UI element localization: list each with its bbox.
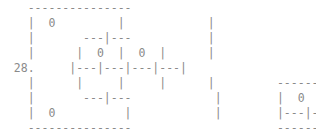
ascii-row-7: | 0 | | |---|---| [0, 106, 316, 121]
ascii-row-3: | | 0 | 0 | | [0, 46, 316, 61]
ascii-row-4-with-label: 28. |---|---|---|---| [0, 61, 316, 76]
ascii-row-6: | ---|--- | | 0 | | [0, 91, 316, 106]
ascii-row-5: | | | | | -------- [0, 76, 316, 91]
ascii-art-canvas: --------------- | 0 | | | ---|--- | | | … [0, 0, 316, 139]
ascii-row-0: --------------- [0, 1, 316, 16]
ascii-row-1: | 0 | | [0, 16, 316, 31]
ascii-row-2: | ---|--- | [0, 31, 316, 46]
ascii-row-8: --------------- -------- [0, 121, 316, 136]
